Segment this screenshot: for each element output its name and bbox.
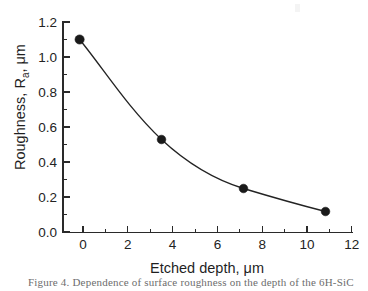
- y-axis-major-ticks: [63, 22, 70, 232]
- data-series-line: [80, 40, 326, 212]
- scan-artifact-speck: [295, 4, 300, 12]
- y-axis-title-main: Roughness, R: [12, 78, 28, 170]
- x-tick-label: 12: [344, 237, 359, 252]
- x-tick-label: 2: [124, 237, 132, 252]
- x-tick-label: 0: [79, 237, 87, 252]
- x-axis-title-unit: μm: [244, 260, 264, 276]
- data-series-markers: [75, 35, 330, 216]
- data-point: [321, 207, 330, 216]
- y-tick-label: 1.2: [38, 15, 57, 30]
- y-tick-label: 0.4: [38, 155, 57, 170]
- y-axis-title-unit: , μm: [12, 44, 28, 73]
- x-axis-title-main: Etched depth,: [150, 260, 244, 276]
- chart-plot: 1.2 1.0 0.8 0.6 0.4 0.2 0.0 0 2 4 6 8 10…: [0, 0, 368, 291]
- x-axis-tick-labels: 0 2 4 6 8 10 12: [79, 237, 359, 252]
- x-axis-title: Etched depth, μm: [150, 260, 264, 276]
- y-axis-tick-labels: 1.2 1.0 0.8 0.6 0.4 0.2 0.0: [38, 15, 57, 240]
- figure-caption-strip: Figure 4. Dependence of surface roughnes…: [0, 277, 368, 291]
- y-tick-label: 1.0: [38, 50, 57, 65]
- data-point: [75, 35, 84, 44]
- x-tick-label: 10: [299, 237, 314, 252]
- figure-container: 1.2 1.0 0.8 0.6 0.4 0.2 0.0 0 2 4 6 8 10…: [0, 0, 368, 291]
- x-tick-label: 4: [169, 237, 177, 252]
- data-point: [157, 135, 166, 144]
- y-tick-label: 0.8: [38, 85, 57, 100]
- figure-caption-text: Figure 4. Dependence of surface roughnes…: [28, 277, 354, 288]
- x-tick-label: 6: [214, 237, 222, 252]
- y-tick-label: 0.0: [38, 225, 57, 240]
- y-axis-title: Roughness, Ra, μm: [12, 44, 31, 170]
- y-tick-label: 0.2: [38, 190, 57, 205]
- y-tick-label: 0.6: [38, 120, 57, 135]
- x-axis-major-ticks: [83, 226, 352, 233]
- data-point: [239, 184, 248, 193]
- svg-text:Etched depth, μm: Etched depth, μm: [150, 260, 264, 276]
- x-tick-label: 8: [258, 237, 266, 252]
- svg-text:Roughness, Ra, μm: Roughness, Ra, μm: [12, 44, 31, 170]
